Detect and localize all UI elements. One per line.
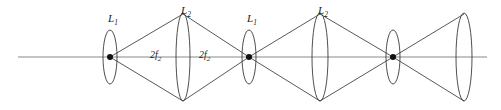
lens-label-l2-second: L2 <box>317 4 328 19</box>
ray-segment <box>320 14 393 57</box>
focal-point-dot <box>390 54 396 60</box>
ray-segment <box>183 57 249 101</box>
ray-segment <box>110 14 183 57</box>
lens-label-group: L1 L2 L1 L2 <box>107 4 328 27</box>
lens-label-l1-second: L1 <box>246 12 257 27</box>
ray-segment <box>393 57 464 101</box>
distance-label-left: 2f2 <box>150 49 162 63</box>
focal-point-dot <box>107 54 113 60</box>
focal-point-dot <box>246 54 252 60</box>
ray-segment <box>393 14 464 57</box>
optics-diagram: L1 L2 L1 L2 2f2 2f2 <box>0 0 501 110</box>
ray-segment <box>183 14 249 57</box>
ray-segment <box>249 14 320 57</box>
ray-segment <box>320 57 393 101</box>
ray-segment <box>110 57 183 101</box>
lens-label-l1-first: L1 <box>107 12 118 27</box>
optics-diagram-canvas: L1 L2 L1 L2 2f2 2f2 <box>0 0 501 110</box>
distance-label-right: 2f2 <box>199 49 211 63</box>
distance-label-group: 2f2 2f2 <box>150 49 211 63</box>
ray-segment <box>249 57 320 101</box>
